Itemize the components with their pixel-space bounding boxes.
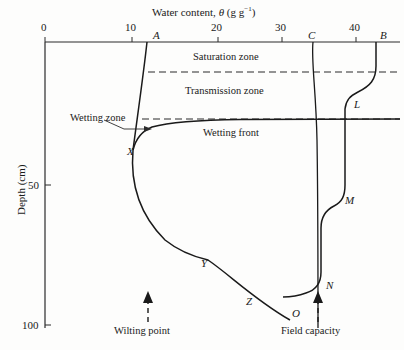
y-axis-ticks bbox=[45, 185, 51, 325]
point-label-x: X bbox=[127, 146, 134, 157]
wilting-point-arrowhead bbox=[143, 291, 153, 303]
wetting-front-curve bbox=[133, 119, 400, 150]
x-axis-units: (g g bbox=[227, 6, 244, 18]
point-label-c: C bbox=[308, 30, 315, 41]
x-axis-units-close: ) bbox=[252, 6, 256, 18]
x-tick-label-0: 0 bbox=[41, 22, 47, 33]
zone-label-saturation: Saturation zone bbox=[193, 52, 259, 63]
x-tick-label-30: 30 bbox=[275, 22, 286, 33]
point-label-l: L bbox=[354, 99, 360, 110]
annotation-field-capacity: Field capacity bbox=[281, 326, 340, 337]
annotation-wetting-zone: Wetting zone bbox=[70, 113, 125, 124]
curve-blmn bbox=[283, 42, 376, 297]
y-axis-title: Depth (cm) bbox=[16, 165, 27, 215]
y-tick-label-50: 50 bbox=[28, 180, 39, 191]
point-label-a: A bbox=[153, 30, 160, 41]
field-capacity-arrowhead bbox=[313, 291, 323, 303]
point-label-n: N bbox=[326, 280, 333, 291]
point-label-b: B bbox=[380, 30, 387, 41]
point-label-o: O bbox=[292, 308, 300, 319]
curve-axyzo bbox=[132, 42, 290, 320]
zone-label-transmission: Transmission zone bbox=[185, 86, 264, 97]
x-axis-exponent: −1 bbox=[244, 5, 251, 13]
point-label-y: Y bbox=[201, 258, 207, 269]
x-tick-label-10: 10 bbox=[125, 22, 136, 33]
x-axis-title: Water content, θ (g g−1) bbox=[152, 6, 255, 18]
annotation-wilting-point: Wilting point bbox=[114, 326, 170, 337]
water-content-depth-figure: Water content, θ (g g−1) 0 10 20 30 40 D… bbox=[0, 0, 404, 350]
x-tick-label-20: 20 bbox=[211, 22, 222, 33]
y-tick-label-100: 100 bbox=[22, 320, 39, 331]
zone-label-wetting-front: Wetting front bbox=[203, 128, 259, 139]
point-label-m: M bbox=[345, 195, 354, 206]
x-axis-title-text: Water content, bbox=[152, 6, 219, 18]
theta-symbol: θ bbox=[219, 6, 224, 18]
x-tick-label-40: 40 bbox=[349, 22, 360, 33]
point-label-z: Z bbox=[246, 296, 252, 307]
